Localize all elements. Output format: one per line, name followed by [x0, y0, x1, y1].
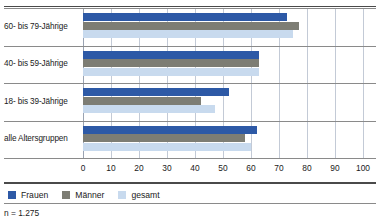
- legend-label: Männer: [75, 190, 104, 200]
- sample-size-note: n = 1.275: [4, 208, 39, 218]
- category-label: 18- bis 39-Jährige: [4, 97, 80, 106]
- bar-männer-0: [83, 22, 299, 30]
- x-tick-label-10: 10: [106, 163, 115, 173]
- category-separator: [4, 46, 376, 47]
- bar-männer-3: [83, 134, 245, 142]
- x-tick-label-50: 50: [218, 163, 227, 173]
- legend-divider: [4, 203, 376, 204]
- x-tick-label-30: 30: [162, 163, 171, 173]
- legend-item-gesamt[interactable]: gesamt: [118, 190, 159, 200]
- x-tick-label-40: 40: [190, 163, 199, 173]
- category-label: alle Altersgruppen: [4, 134, 80, 143]
- category-label: 40- bis 59-Jährige: [4, 59, 80, 68]
- bar-männer-1: [83, 59, 259, 67]
- bar-frauen-2: [83, 88, 229, 96]
- x-tick-label-70: 70: [274, 163, 283, 173]
- legend-swatch-icon: [62, 191, 70, 199]
- bar-männer-2: [83, 97, 201, 105]
- legend-item-frauen[interactable]: Frauen: [8, 190, 48, 200]
- legend-item-männer[interactable]: Männer: [62, 190, 104, 200]
- legend-label: gesamt: [131, 190, 159, 200]
- bar-frauen-1: [83, 51, 259, 59]
- x-tick-label-90: 90: [330, 163, 339, 173]
- legend-label: Frauen: [21, 190, 48, 200]
- category-separator: [4, 121, 376, 122]
- x-tick-label-20: 20: [134, 163, 143, 173]
- x-tick-label-80: 80: [302, 163, 311, 173]
- top-divider: [4, 6, 376, 7]
- horizontal-bar-chart: 60- bis 79-Jährige40- bis 59-Jährige18- …: [0, 0, 380, 221]
- legend-swatch-icon: [8, 191, 16, 199]
- category-separator: [4, 83, 376, 84]
- x-tick-label-0: 0: [81, 163, 86, 173]
- category-separator: [4, 8, 376, 9]
- bar-gesamt-0: [83, 30, 293, 38]
- x-axis-bottom-divider: [4, 182, 376, 184]
- x-tick-label-60: 60: [246, 163, 255, 173]
- bar-gesamt-1: [83, 68, 259, 76]
- chart-legend: FrauenMännergesamt: [8, 189, 174, 201]
- category-label: 60- bis 79-Jährige: [4, 22, 80, 31]
- bar-gesamt-2: [83, 105, 215, 113]
- x-tick-label-100: 100: [356, 163, 370, 173]
- bar-gesamt-3: [83, 143, 251, 151]
- x-axis-line: [4, 158, 376, 159]
- legend-swatch-icon: [118, 191, 126, 199]
- bar-frauen-3: [83, 126, 257, 134]
- bar-frauen-0: [83, 13, 287, 21]
